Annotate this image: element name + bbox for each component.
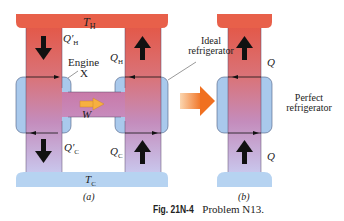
figure-text: Problem N13. xyxy=(202,203,264,215)
qc-prime-label: Q′C xyxy=(64,142,79,156)
cold-reservoir-b xyxy=(217,172,272,187)
q-bottom-label: Q xyxy=(267,151,275,162)
panel-b-label: (b) xyxy=(238,192,250,202)
transform-arrow-icon xyxy=(180,86,215,116)
fridge-leader-line xyxy=(168,62,196,80)
qc-label: QC xyxy=(110,146,123,160)
figure-number: Fig. 21N-4 xyxy=(153,204,194,215)
figure-caption: Fig. 21N-4 Problem N13. xyxy=(153,203,264,215)
perfect-fridge-label: Perfect refrigerator xyxy=(276,93,342,113)
qh-prime-label: Q′H xyxy=(63,33,78,47)
engine-leader-line xyxy=(68,71,78,78)
hot-reservoir-label: TH xyxy=(83,16,95,31)
qh-label: QH xyxy=(110,52,123,66)
panel-a-label: (a) xyxy=(83,192,95,202)
q-top-label: Q xyxy=(267,57,275,68)
cold-reservoir-label: TC xyxy=(85,174,96,188)
work-label: W xyxy=(82,109,91,120)
hot-reservoir-b xyxy=(217,14,272,28)
engine-id: X xyxy=(80,68,88,79)
ideal-fridge-label: Ideal refrigerator xyxy=(176,36,246,56)
